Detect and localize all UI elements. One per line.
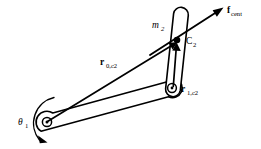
label-r0c2-symbol: r — [100, 57, 105, 67]
f-cent-arrowhead — [213, 8, 224, 17]
label-r1c2-subscript: 1,c2 — [187, 89, 198, 96]
diagram-canvas: m 2 C 2 r 0,c2 r 1,c2 f cent θ 1 — [0, 0, 261, 149]
label-theta-1-symbol: θ — [18, 117, 23, 127]
label-c2-symbol: C — [186, 36, 192, 46]
label-r0c2-subscript: 0,c2 — [106, 62, 117, 69]
link-1 — [36, 79, 182, 131]
label-r1c2-symbol: r — [181, 84, 186, 94]
label-m2: m 2 — [152, 20, 165, 32]
label-theta-1: θ 1 — [18, 117, 28, 129]
manipulator-diagram: m 2 C 2 r 0,c2 r 1,c2 f cent θ 1 — [0, 0, 261, 149]
center-of-mass-dot — [174, 37, 181, 44]
label-r1c2: r 1,c2 — [181, 84, 198, 96]
revolute-joint-1 — [168, 84, 177, 93]
center-of-mass-marker — [174, 37, 181, 44]
label-c2: C 2 — [186, 36, 196, 48]
label-m2-symbol: m — [152, 20, 159, 30]
label-r0c2: r 0,c2 — [100, 57, 117, 69]
theta-1-arc-arrowhead — [38, 136, 48, 144]
link-1-body — [36, 79, 182, 131]
label-m2-subscript: 2 — [161, 25, 165, 32]
label-f-cent: f cent — [227, 5, 242, 17]
label-theta-1-subscript: 1 — [25, 122, 28, 129]
label-f-cent-subscript: cent — [231, 10, 242, 17]
label-c2-subscript: 2 — [193, 41, 196, 48]
